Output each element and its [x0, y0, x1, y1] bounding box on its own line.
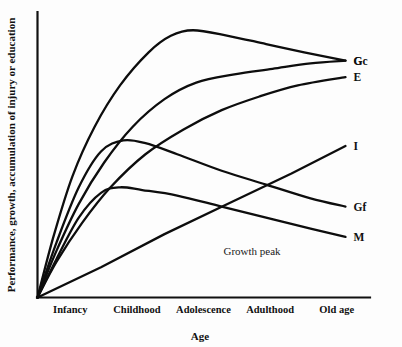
- y-axis-title: Performance, growth, accumulation of inj…: [5, 18, 17, 293]
- series-labels: G Gc E I Gf M: [354, 55, 368, 243]
- x-tick-label-adolescence: Adolescence: [176, 304, 231, 315]
- x-axis-tick-labels: InfancyChildhoodAdolescenceAdulthoodOld …: [53, 304, 354, 315]
- series-label-gf: Gf: [354, 201, 367, 213]
- chart-canvas: Performance, growth, accumulation of inj…: [0, 0, 402, 347]
- series-line-g: [38, 30, 346, 297]
- series-line-gf: [38, 140, 346, 298]
- series-label-gc: Gc: [354, 55, 368, 67]
- x-tick-label-old-age: Old age: [319, 304, 354, 315]
- x-axis-title: Age: [191, 330, 209, 342]
- y-axis-title-group: Performance, growth, accumulation of inj…: [5, 18, 17, 293]
- series-line-m: [38, 187, 346, 297]
- lifespan-development-chart: Performance, growth, accumulation of inj…: [0, 0, 402, 347]
- series-label-i: I: [354, 140, 359, 152]
- x-tick-label-childhood: Childhood: [113, 304, 160, 315]
- series-line-e: [38, 77, 346, 297]
- x-tick-label-adulthood: Adulthood: [246, 304, 294, 315]
- series-label-m: M: [354, 231, 365, 243]
- x-tick-label-infancy: Infancy: [53, 304, 88, 315]
- series-curves: [38, 30, 346, 297]
- series-label-e: E: [354, 71, 362, 83]
- growth-peak-annotation: Growth peak: [223, 245, 281, 257]
